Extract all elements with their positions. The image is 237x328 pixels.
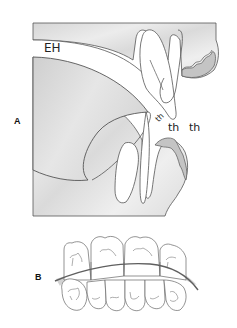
upper-incisor	[140, 30, 176, 119]
lower-tooth-5	[145, 280, 165, 309]
figure-canvas: EH th th th A	[0, 0, 237, 328]
panel-a-diagram	[33, 23, 218, 216]
panel-label-a: A	[14, 116, 21, 126]
lower-tooth-6	[164, 280, 186, 311]
label-th-2: th	[189, 121, 200, 134]
lower-tooth-2	[87, 280, 106, 309]
label-th-rotated: th	[154, 111, 166, 123]
panel-label-b: B	[35, 272, 42, 282]
lower-tooth-4	[125, 280, 145, 311]
lower-incisor-2	[140, 112, 149, 203]
label-th-1: th	[168, 121, 179, 134]
dental-figure: EH th th th A	[0, 0, 237, 328]
upper-tooth-1	[64, 242, 91, 280]
upper-tooth-2	[91, 236, 124, 280]
lower-tooth-3	[105, 280, 125, 311]
label-eh: EH	[44, 41, 61, 55]
lower-tooth-1	[62, 279, 87, 310]
upper-tooth-3	[124, 237, 160, 276]
panel-b-diagram	[55, 236, 198, 310]
